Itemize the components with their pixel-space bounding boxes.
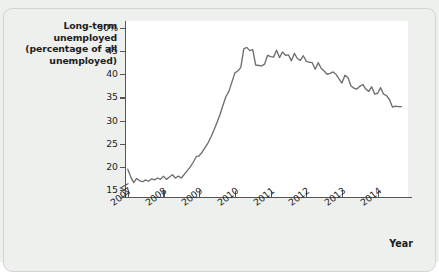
- x-axis-title: Year: [389, 238, 413, 249]
- y-tick-label: 50%: [78, 22, 118, 33]
- y-tick-label: 20: [78, 161, 118, 172]
- y-tick-label: 30: [78, 115, 118, 126]
- y-axis-title-line-3: unemployed): [4, 55, 117, 67]
- y-tick-label: 15: [78, 184, 118, 195]
- series-line-chart: [126, 21, 408, 197]
- series-polyline: [128, 47, 402, 182]
- y-tick-label: 25: [78, 138, 118, 149]
- y-tick-label: 40: [78, 68, 118, 79]
- y-tick-label: 45: [78, 45, 118, 56]
- y-tick-label: 35: [78, 91, 118, 102]
